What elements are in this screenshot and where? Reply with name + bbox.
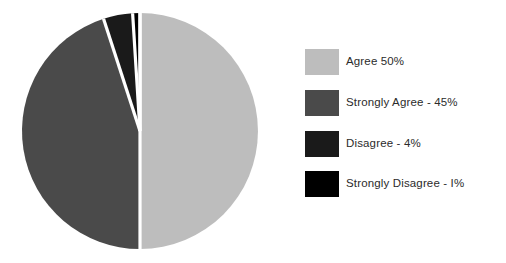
legend-label-strongly-agree: Strongly Agree - 45% — [346, 96, 458, 109]
legend-swatch-strongly-agree — [305, 90, 339, 116]
legend-item-disagree[interactable]: Disagree - 4% — [305, 130, 506, 157]
legend-swatch-agree — [305, 49, 339, 75]
chart-legend: Agree 50% Strongly Agree - 45% Disagree … — [305, 44, 506, 204]
pie-chart-plot-area — [0, 0, 285, 263]
pie-slice-agree[interactable] — [140, 13, 258, 249]
legend-label-disagree: Disagree - 4% — [346, 137, 421, 150]
legend-item-agree[interactable]: Agree 50% — [305, 48, 506, 75]
legend-label-strongly-disagree: Strongly Disagree - I% — [346, 177, 464, 190]
pie-chart-figure: Agree 50% Strongly Agree - 45% Disagree … — [0, 0, 506, 263]
pie-chart-svg — [0, 0, 285, 263]
legend-swatch-strongly-disagree — [305, 171, 339, 197]
legend-item-strongly-disagree[interactable]: Strongly Disagree - I% — [305, 170, 506, 197]
legend-swatch-disagree — [305, 131, 339, 157]
legend-item-strongly-agree[interactable]: Strongly Agree - 45% — [305, 89, 506, 116]
legend-label-agree: Agree 50% — [346, 55, 404, 68]
